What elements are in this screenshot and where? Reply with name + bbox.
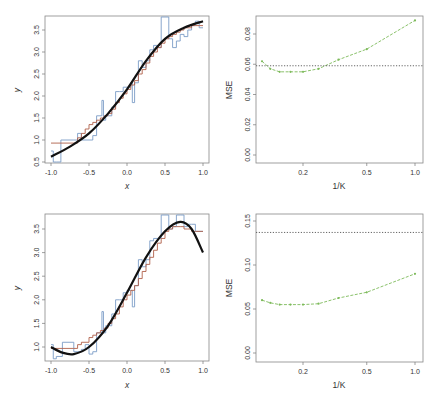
y-tick-label: 0.10 [244, 258, 251, 272]
y-tick-label: 3.0 [33, 47, 40, 57]
mse-curve [262, 274, 415, 305]
panel-bottom-right-mse: 0.20.51.00.000.050.100.15 1/K MSE [224, 214, 423, 390]
panel-top-left-knn-fit: -1.0-0.50.00.51.00.51.01.52.02.53.03.5 x… [12, 16, 209, 191]
mse-point [302, 304, 304, 306]
y-tick-label: 3.5 [33, 224, 40, 234]
y-tick-label: 2.5 [33, 69, 40, 79]
mse-point [261, 299, 263, 301]
plot-frame [256, 214, 423, 362]
panel-bottom-left-knn-fit: -1.0-0.50.00.51.01.01.52.02.53.03.5 x y [12, 214, 209, 390]
y-tick-label: 0.06 [244, 57, 251, 71]
series-layer [51, 17, 203, 162]
x-tick-label: 0.5 [160, 367, 170, 374]
y-tick-label: 0.15 [244, 214, 251, 228]
y-axis-label: y [12, 285, 22, 291]
series-layer [51, 215, 203, 359]
mse-curve [262, 20, 415, 71]
mse-point [337, 297, 339, 299]
mse-point [289, 304, 291, 306]
mse-point [414, 19, 416, 21]
x-tick-label: 0.5 [362, 169, 372, 176]
y-tick-label: 2.5 [33, 271, 40, 281]
y-tick-label: 0.08 [244, 27, 251, 41]
y-tick-label: 0.02 [244, 118, 251, 132]
plot-frame [256, 16, 423, 163]
x-axis-label: x [124, 380, 130, 390]
mse-point [366, 48, 368, 50]
y-axis-label: y [12, 87, 22, 93]
y-tick-label: 3.5 [33, 25, 40, 35]
mse-point [317, 303, 319, 305]
x-axis-label: 1/K [333, 380, 346, 390]
y-tick-label: 3.0 [33, 248, 40, 258]
y-axis-label: MSE [224, 278, 234, 297]
knn-step-line [51, 227, 203, 349]
x-tick-label: -0.5 [83, 169, 95, 176]
true-function-curve [51, 222, 203, 355]
x-axis-label: x [124, 181, 130, 191]
x-tick-label: 0.5 [160, 169, 170, 176]
y-tick-label: 1.0 [33, 135, 40, 145]
mse-point [414, 273, 416, 275]
y-tick-label: 0.05 [244, 302, 251, 316]
y-tick-label: 1.0 [33, 342, 40, 352]
y-tick-label: 2.0 [33, 91, 40, 101]
x-tick-label: 0.0 [122, 367, 132, 374]
x-tick-label: 1.0 [410, 169, 420, 176]
x-tick-label: 0.2 [298, 169, 308, 176]
mse-point [261, 60, 263, 62]
x-tick-label: 1.0 [198, 367, 208, 374]
y-axis-label: MSE [224, 80, 234, 99]
true-function-curve [51, 21, 203, 157]
figure: -1.0-0.50.00.51.00.51.01.52.02.53.03.5 x… [0, 0, 436, 405]
y-tick-label: 0.04 [244, 88, 251, 102]
x-tick-label: 0.5 [362, 368, 372, 375]
x-tick-label: 0.2 [298, 368, 308, 375]
y-tick-label: 0.00 [244, 346, 251, 360]
x-tick-label: -0.5 [83, 367, 95, 374]
x-axis-label: 1/K [333, 181, 346, 191]
series-layer [256, 19, 423, 73]
mse-point [269, 302, 271, 304]
x-tick-label: 1.0 [198, 169, 208, 176]
axis-ticks: 0.20.51.00.000.020.040.060.08 [244, 27, 420, 176]
x-tick-label: -1.0 [45, 367, 57, 374]
x-tick-label: -1.0 [45, 169, 57, 176]
series-layer [256, 232, 423, 305]
knn-step-line [51, 215, 203, 359]
mse-point [302, 71, 304, 73]
y-tick-label: 1.5 [33, 318, 40, 328]
x-tick-label: 0.0 [122, 169, 132, 176]
x-tick-label: 1.0 [410, 368, 420, 375]
panel-top-right-mse: 0.20.51.00.000.020.040.060.08 1/K MSE [224, 16, 423, 191]
mse-point [337, 59, 339, 61]
knn-step-line [51, 26, 203, 143]
y-tick-label: 2.0 [33, 295, 40, 305]
plot-frame [45, 214, 209, 361]
y-tick-label: 0.5 [33, 157, 40, 167]
y-tick-label: 1.5 [33, 113, 40, 123]
mse-point [269, 68, 271, 70]
mse-point [279, 304, 281, 306]
mse-point [289, 71, 291, 73]
mse-point [366, 291, 368, 293]
mse-point [317, 68, 319, 70]
y-tick-label: 0.00 [244, 148, 251, 162]
axis-ticks: 0.20.51.00.000.050.100.15 [244, 214, 420, 375]
mse-point [279, 71, 281, 73]
